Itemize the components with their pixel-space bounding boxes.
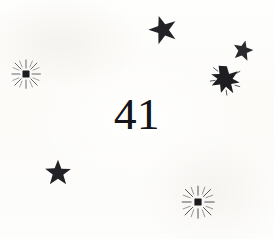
page-number: 41 [0,88,274,140]
five-point-star-icon [144,10,182,48]
page-canvas: 41 [0,0,274,239]
burst-sparkle-icon [10,58,42,90]
five-point-star-icon [230,37,256,63]
five-point-star-icon [44,158,72,186]
sparkle-left [10,58,42,90]
burst-sparkle-icon [180,184,216,220]
star-bottom-left [44,158,72,186]
star-top-right-small [230,37,256,63]
star-top-center [144,10,182,48]
sparkle-bottom-right [180,184,216,220]
